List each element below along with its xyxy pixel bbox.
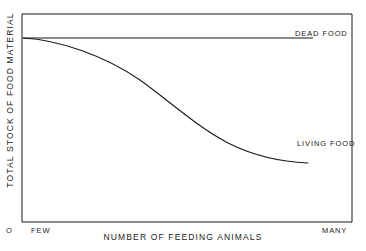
series-label-living-food: LIVING FOOD [297, 139, 355, 148]
y-axis-title: TOTAL STOCK OF FOOD MATERIAL [0, 0, 20, 200]
x-tick-many: MANY [322, 226, 347, 235]
axis-frame [22, 14, 352, 222]
chart-figure: TOTAL STOCK OF FOOD MATERIAL NUMBER OF F… [0, 0, 366, 251]
x-axis-title: NUMBER OF FEEDING ANIMALS [0, 232, 366, 242]
y-axis-title-text: TOTAL STOCK OF FOOD MATERIAL [5, 12, 15, 187]
origin-label: O [6, 226, 13, 235]
x-tick-few: FEW [31, 226, 50, 235]
series-label-dead-food: DEAD FOOD [295, 29, 348, 38]
series-line-living-food [23, 38, 308, 163]
